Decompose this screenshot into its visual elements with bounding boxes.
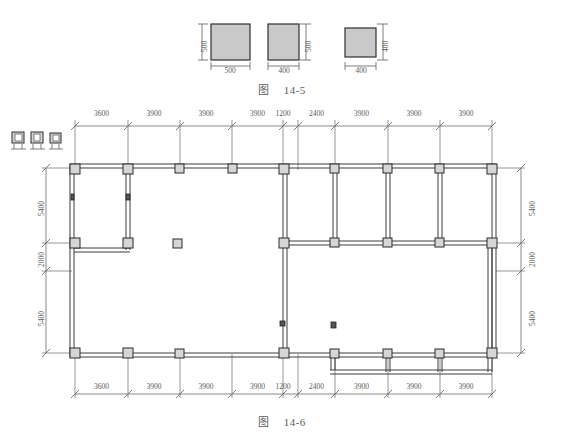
wall-stub	[71, 194, 74, 200]
column	[435, 238, 444, 247]
column	[487, 164, 497, 174]
left-dim-2: 2000	[37, 252, 46, 267]
column	[123, 348, 133, 358]
top-dim-1: 3600	[76, 109, 127, 118]
interior-wall-left-horizontal	[74, 248, 130, 252]
left-dim-3: 5400	[37, 311, 46, 326]
column	[487, 238, 497, 248]
dim-sq2-width: 400	[270, 66, 298, 75]
right-dim-1: 5400	[528, 201, 537, 216]
column	[330, 238, 339, 247]
figure-14-6-caption: 图14-6	[0, 413, 564, 429]
column	[70, 348, 80, 358]
column	[279, 238, 289, 248]
top-dim-8: 3900	[388, 109, 440, 118]
bottom-dim-3: 3900	[180, 382, 232, 391]
top-dim-7: 3900	[335, 109, 388, 118]
top-dim-2: 3900	[128, 109, 180, 118]
bottom-dim-8: 3900	[388, 382, 440, 391]
column	[123, 164, 133, 174]
top-dim-9: 3900	[440, 109, 492, 118]
dim-sq3-width: 400	[347, 66, 375, 75]
column-marker-small	[331, 322, 336, 328]
right-dim-2: 2000	[528, 252, 537, 267]
top-dim-6: 2400	[298, 109, 335, 118]
caption-label: 图	[258, 416, 270, 428]
caption-number: 14-5	[284, 84, 306, 96]
square-400x400	[345, 28, 376, 57]
square-400x500	[268, 24, 299, 60]
column	[70, 238, 80, 248]
left-dim-1: 5400	[37, 201, 46, 216]
column	[435, 349, 444, 358]
bottom-dim-9: 3900	[440, 382, 492, 391]
column	[383, 164, 392, 173]
dim-sq2-height: 500	[304, 41, 313, 52]
bottom-dim-6: 2400	[298, 382, 335, 391]
dim-sq3-height: 400	[381, 41, 390, 52]
column	[175, 164, 184, 173]
column-freestanding	[173, 239, 182, 248]
top-dim-5: 1200	[268, 109, 298, 118]
interior-wall-central-vertical	[283, 243, 287, 357]
bottom-dim-5: 1200	[268, 382, 298, 391]
right-dim-3: 5400	[528, 311, 537, 326]
column	[383, 349, 392, 358]
drawing-sheet: 500 500 500 400 400 400 图14-5	[0, 0, 564, 443]
figure-14-5-caption: 图14-5	[0, 81, 564, 97]
column	[70, 164, 80, 174]
dim-sq1-width: 500	[216, 66, 244, 75]
figure-14-5: 500 500 500 400 400 400 图14-5	[0, 0, 564, 100]
column	[279, 164, 289, 174]
interior-walls-upper-verticals	[283, 168, 442, 243]
figure-14-6: 3600 3900 3900 3900 1200 2400 3900 3900 …	[0, 100, 564, 443]
column	[123, 238, 133, 248]
column-marker-small	[280, 321, 285, 326]
column	[228, 164, 237, 173]
bottom-dim-1: 3600	[76, 382, 127, 391]
bottom-dim-7: 3900	[335, 382, 388, 391]
column	[435, 164, 444, 173]
column	[175, 349, 184, 358]
top-dim-3: 3900	[180, 109, 232, 118]
dim-sq1-height: 500	[200, 41, 209, 52]
interior-wall-lower-top	[330, 370, 492, 374]
column	[487, 348, 497, 358]
column	[383, 238, 392, 247]
column	[279, 348, 289, 358]
square-500x500	[211, 24, 250, 60]
caption-number: 14-6	[284, 416, 306, 428]
column	[330, 349, 339, 358]
caption-label: 图	[258, 84, 270, 96]
floor-plan	[0, 100, 564, 443]
bottom-dim-2: 3900	[128, 382, 180, 391]
column	[330, 164, 339, 173]
wall-stub	[126, 194, 130, 200]
